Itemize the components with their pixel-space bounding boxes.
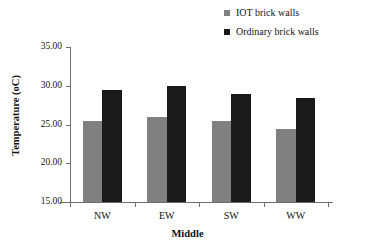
bar [212,121,232,202]
bar [83,121,103,202]
bar [231,94,251,202]
x-axis-category-label: EW [137,211,197,221]
y-axis-tick-label-wrap: 20.00 [18,158,62,168]
chart-legend: IOT brick walls Ordinary brick walls [224,6,374,44]
bar-chart: IOT brick walls Ordinary brick walls 35.… [0,0,375,248]
legend-swatch-icon [224,10,230,16]
y-axis-tick-label: 15.00 [20,197,62,207]
legend-item-iot-brick-walls: IOT brick walls [224,6,374,20]
legend-item-ordinary-brick-walls: Ordinary brick walls [224,25,374,39]
bar [296,98,316,202]
bar [147,117,167,202]
x-axis-tick [264,203,265,207]
y-axis-tick-label: 30.00 [20,81,62,91]
x-axis-tick [70,203,71,207]
legend-swatch-icon [224,29,230,35]
plot-area [70,47,328,202]
y-axis-title: Temperature (oC) [10,56,21,176]
legend-item-label: Ordinary brick walls [236,27,319,37]
x-axis-title: Middle [0,228,375,239]
y-axis-tick-label: 35.00 [20,42,62,52]
bar [276,129,296,202]
x-axis-category-label: SW [201,211,261,221]
bar [102,90,122,202]
x-axis-category-label: NW [72,211,132,221]
x-axis-category-label: WW [266,211,326,221]
y-axis-tick-label-wrap: 35.00 [18,42,62,52]
y-axis-tick-label-wrap: 25.00 [18,120,62,130]
y-axis-tick-label-wrap: 30.00 [18,81,62,91]
bar [167,86,187,202]
y-axis-tick-label: 25.00 [20,120,62,130]
legend-item-label: IOT brick walls [236,8,299,18]
x-axis-tick [328,203,329,207]
x-axis-tick [135,203,136,207]
y-axis-tick-label: 20.00 [20,158,62,168]
x-axis-tick [199,203,200,207]
y-axis-tick-label-wrap: 15.00 [18,197,62,207]
x-axis-line [60,202,333,203]
